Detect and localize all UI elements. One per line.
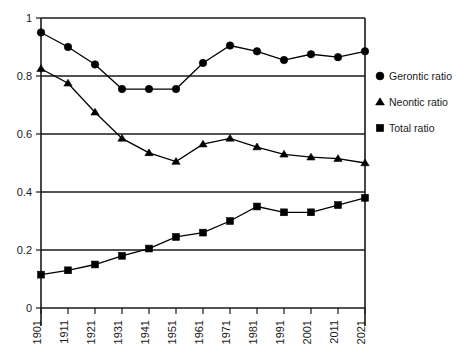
line-chart: 00.20.40.60.81 1901191119211931194119511…	[0, 0, 467, 356]
data-point-circle	[145, 85, 152, 92]
data-point-square	[200, 229, 207, 236]
data-point-circle	[118, 85, 125, 92]
x-tick-label: 1971	[220, 320, 232, 344]
y-tick-label: 0.6	[17, 128, 32, 140]
data-point-square	[308, 209, 315, 216]
series-total-ratio	[38, 194, 369, 278]
x-tick-label: 1991	[274, 320, 286, 344]
legend-label: Total ratio	[389, 122, 435, 134]
data-point-circle	[280, 56, 287, 63]
x-tick-label: 1951	[166, 320, 178, 344]
x-tick-label: 2011	[328, 320, 340, 344]
x-tick-label: 2001	[301, 320, 313, 344]
data-point-square	[38, 271, 45, 278]
data-point-square	[281, 209, 288, 216]
x-tick-label: 1911	[58, 320, 70, 344]
x-tick-label: 1921	[85, 320, 97, 344]
data-point-circle	[307, 51, 314, 58]
legend-item-neontic-ratio: Neontic ratio	[376, 96, 448, 108]
data-point-square	[335, 202, 342, 209]
data-point-square	[92, 261, 99, 268]
x-tick-label: 1941	[139, 320, 151, 344]
data-point-triangle	[226, 134, 234, 141]
data-point-square	[119, 252, 126, 259]
series-neontic-ratio	[37, 65, 369, 166]
legend-item-total-ratio: Total ratio	[376, 122, 434, 134]
legend-marker-triangle-icon	[376, 98, 385, 105]
data-point-circle	[226, 42, 233, 49]
data-point-circle	[361, 48, 368, 55]
legend-label: Gerontic ratio	[389, 70, 452, 82]
data-point-circle	[37, 29, 44, 36]
y-tick-label: 0.2	[17, 244, 32, 256]
data-point-circle	[172, 85, 179, 92]
data-point-square	[362, 194, 369, 201]
legend-marker-circle-icon	[376, 72, 384, 80]
y-axis-ticks: 00.20.40.60.81	[17, 12, 41, 314]
x-tick-label: 1961	[193, 320, 205, 344]
data-point-triangle	[37, 65, 45, 72]
data-point-square	[227, 218, 234, 225]
series-gerontic-ratio	[37, 29, 368, 93]
data-series	[37, 29, 369, 278]
x-tick-label: 1931	[112, 320, 124, 344]
legend-item-gerontic-ratio: Gerontic ratio	[376, 70, 452, 82]
y-tick-label: 0	[26, 302, 32, 314]
data-point-square	[173, 234, 180, 241]
y-tick-label: 0.4	[17, 186, 32, 198]
y-tick-label: 1	[26, 12, 32, 24]
y-tick-label: 0.8	[17, 70, 32, 82]
series-line	[41, 69, 365, 163]
data-point-triangle	[145, 149, 153, 156]
x-axis-ticks: 1901191119211931194119511961197119811991…	[31, 308, 367, 344]
data-point-circle	[253, 48, 260, 55]
data-point-triangle	[64, 79, 72, 86]
gridlines	[41, 18, 365, 250]
legend-marker-square-icon	[376, 124, 383, 131]
legend-label: Neontic ratio	[389, 96, 448, 108]
data-point-circle	[64, 43, 71, 50]
chart-legend: Gerontic ratioNeontic ratioTotal ratio	[376, 70, 453, 134]
data-point-square	[146, 245, 153, 252]
data-point-square	[65, 267, 72, 274]
x-tick-label: 1981	[247, 320, 259, 344]
data-point-square	[254, 203, 261, 210]
data-point-circle	[334, 53, 341, 60]
data-point-circle	[91, 61, 98, 68]
chart-figure: 00.20.40.60.81 1901191119211931194119511…	[0, 0, 467, 356]
data-point-circle	[199, 59, 206, 66]
